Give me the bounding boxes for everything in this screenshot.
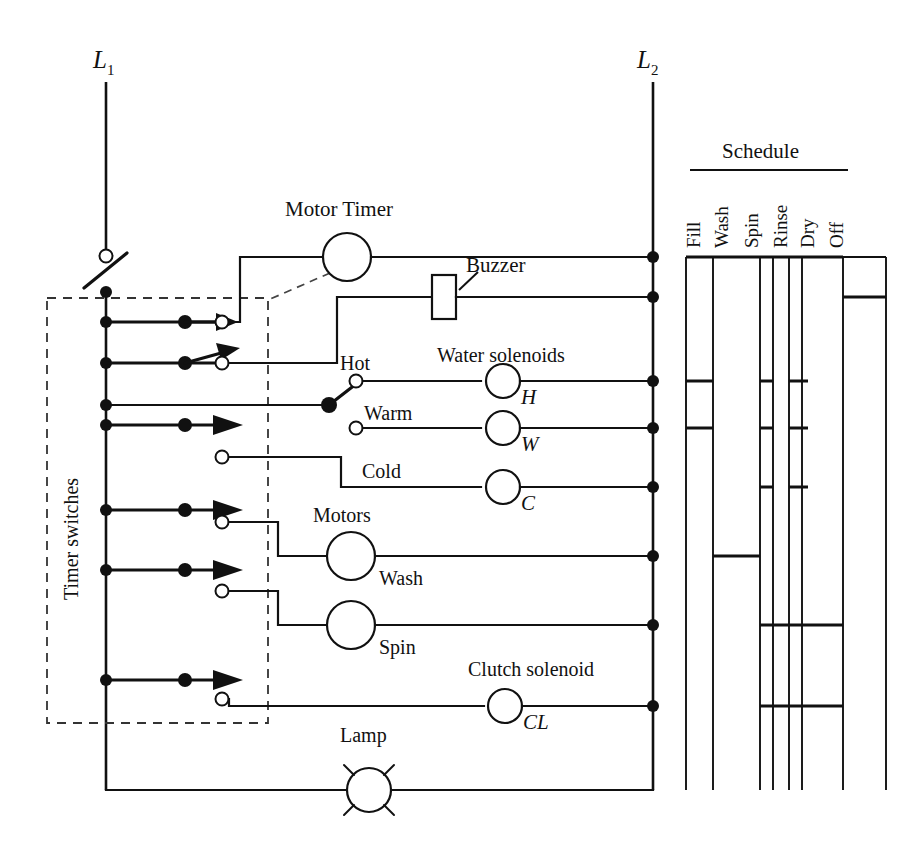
timer-switch-3-pivot bbox=[178, 418, 192, 432]
schedule-col-wash: Wash bbox=[711, 206, 732, 248]
schedule-col-off: Off bbox=[826, 221, 847, 248]
rail-label-l2: L2 bbox=[636, 46, 658, 78]
clutch-contact[interactable] bbox=[216, 693, 229, 706]
lamp-label: Lamp bbox=[340, 724, 387, 747]
lamp-ray-lower-left bbox=[344, 805, 354, 815]
cold-label: Cold bbox=[362, 460, 401, 482]
junction-dot-l2-hot bbox=[647, 375, 659, 387]
timer-switch-5-pivot bbox=[178, 563, 192, 577]
junction-dot-l2-rung1 bbox=[647, 251, 659, 263]
junction-dot-l2-wash bbox=[647, 550, 659, 562]
wash-label: Wash bbox=[379, 567, 423, 589]
rung1-left-wire bbox=[229, 257, 326, 322]
spin-motor-coil bbox=[327, 601, 375, 649]
solenoid-c-label: C bbox=[521, 491, 536, 515]
cold-wire-left bbox=[229, 457, 481, 487]
wash-motor-coil bbox=[327, 532, 375, 580]
motors-label: Motors bbox=[313, 504, 371, 526]
timer-mechanical-link bbox=[268, 273, 330, 300]
lamp-ray-lower-right bbox=[384, 805, 394, 815]
clutch-solenoid-label: Clutch solenoid bbox=[468, 658, 594, 680]
spin-motor-left-wire bbox=[229, 591, 327, 625]
disconnect-terminal bbox=[100, 250, 113, 263]
junction-dot-l2-warm bbox=[647, 422, 659, 434]
wash-motor-left-wire bbox=[229, 522, 327, 556]
solenoid-h-label: H bbox=[520, 385, 538, 409]
buzzer-label: Buzzer bbox=[466, 253, 525, 277]
lamp-ray-upper-left bbox=[344, 765, 354, 775]
timer-switch-5-arrowhead bbox=[213, 560, 243, 580]
schedule-col-dry: Dry bbox=[797, 218, 818, 248]
timer-switch-6-pivot bbox=[178, 673, 192, 687]
solenoid-w-label: W bbox=[521, 432, 541, 456]
hot-contact[interactable] bbox=[350, 375, 363, 388]
timer-switch-2-contact[interactable] bbox=[216, 357, 229, 370]
schedule-col-rinse: Rinse bbox=[770, 205, 791, 248]
wash-motor-contact[interactable] bbox=[216, 516, 229, 529]
junction-dot-l2-spin bbox=[647, 619, 659, 631]
warm-label: Warm bbox=[364, 402, 413, 424]
timer-switch-3-arrowhead bbox=[213, 415, 243, 435]
motor-timer-label: Motor Timer bbox=[285, 197, 393, 221]
timer-switch-6-arrowhead bbox=[213, 670, 243, 690]
buzzer-element bbox=[432, 275, 456, 319]
clutch-cl-label: CL bbox=[523, 710, 549, 734]
spin-label: Spin bbox=[379, 636, 416, 659]
washing-machine-ladder-diagram: L1 L2 Timer switches Motor Timer Buzzer bbox=[0, 0, 922, 858]
schedule-col-spin: Spin bbox=[741, 213, 762, 248]
timer-switches-label: Timer switches bbox=[60, 478, 82, 600]
junction-dot-l2-rung2 bbox=[647, 291, 659, 303]
water-solenoids-label: Water solenoids bbox=[437, 344, 565, 366]
clutch-solenoid-coil bbox=[488, 689, 522, 723]
junction-dot-l2-cold bbox=[647, 481, 659, 493]
junction-dot-l2-clutch bbox=[647, 700, 659, 712]
water-solenoid-c-coil bbox=[486, 470, 520, 504]
junction-dot-l1-top bbox=[100, 286, 112, 298]
timer-switch-4-pivot bbox=[178, 503, 192, 517]
timer-switch-1-contact[interactable] bbox=[216, 316, 229, 329]
lamp-ray-upper-right bbox=[384, 765, 394, 775]
rail-label-l1: L1 bbox=[92, 46, 114, 78]
schedule-title: Schedule bbox=[722, 139, 799, 163]
rung2-left-wire bbox=[229, 297, 432, 363]
ladder-diagram-page: L1 L2 Timer switches Motor Timer Buzzer bbox=[0, 0, 922, 858]
hot-label: Hot bbox=[340, 352, 370, 374]
warm-contact[interactable] bbox=[350, 422, 363, 435]
cold-contact[interactable] bbox=[216, 451, 229, 464]
motor-timer-coil bbox=[323, 233, 371, 281]
schedule-col-fill: Fill bbox=[683, 222, 704, 248]
water-solenoid-w-coil bbox=[486, 411, 520, 445]
water-solenoid-h-coil bbox=[486, 364, 520, 398]
spin-motor-contact[interactable] bbox=[216, 585, 229, 598]
